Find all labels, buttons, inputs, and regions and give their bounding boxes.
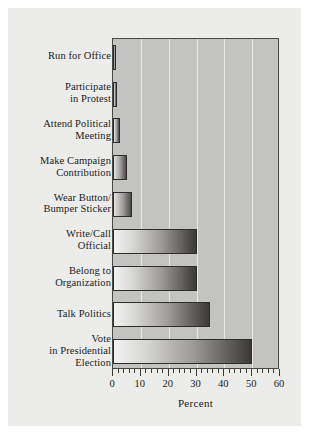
category-label-line: in Protest (65, 93, 111, 105)
category-label-line: Vote (49, 333, 111, 345)
category-label: Wear Button/Bumper Sticker (8, 185, 111, 222)
bar (113, 266, 197, 291)
gridline-40 (224, 39, 225, 368)
bar (113, 118, 120, 143)
category-label: Attend PoliticalMeeting (8, 112, 111, 149)
minor-tick-46 (240, 369, 241, 373)
gridline-50 (252, 39, 253, 368)
category-label: Run for Office (8, 38, 111, 75)
category-label-line: Attend Political (43, 118, 111, 130)
category-label-line: Meeting (43, 130, 111, 142)
major-tick-30 (196, 369, 197, 376)
category-label-line: Organization (55, 277, 111, 289)
minor-tick-36 (212, 369, 213, 373)
category-label-line: Contribution (40, 167, 111, 179)
x-axis-title: Percent (112, 397, 279, 409)
minor-tick-34 (207, 369, 208, 373)
category-label-line: Write/Call (66, 228, 111, 240)
category-label-line: Participate (65, 81, 111, 93)
minor-tick-22 (173, 369, 174, 373)
category-label-line: Election (49, 357, 111, 369)
major-tick-10 (140, 369, 141, 376)
category-label-line: Make Campaign (40, 155, 111, 167)
minor-tick-54 (262, 369, 263, 373)
category-label-line: Bumper Sticker (43, 203, 111, 215)
plot-area (112, 38, 279, 369)
minor-tick-38 (218, 369, 219, 373)
minor-tick-28 (190, 369, 191, 373)
tick-label-0: 0 (109, 378, 114, 389)
minor-tick-18 (162, 369, 163, 373)
category-label-line: in Presidential (49, 345, 111, 357)
category-label-line: Wear Button/ (43, 192, 111, 204)
category-label: Make CampaignContribution (8, 148, 111, 185)
minor-tick-14 (151, 369, 152, 373)
minor-tick-32 (201, 369, 202, 373)
minor-tick-58 (273, 369, 274, 373)
bar (113, 339, 252, 364)
tick-label-20: 20 (162, 378, 173, 389)
chart-figure: Run for OfficeParticipatein ProtestAtten… (8, 8, 301, 426)
minor-tick-26 (184, 369, 185, 373)
minor-tick-8 (134, 369, 135, 373)
minor-tick-16 (157, 369, 158, 373)
tick-label-60: 60 (274, 378, 285, 389)
major-tick-20 (168, 369, 169, 376)
category-label-line: Run for Office (48, 50, 111, 62)
minor-tick-42 (229, 369, 230, 373)
tick-label-10: 10 (135, 378, 146, 389)
minor-tick-44 (234, 369, 235, 373)
category-label: Talk Politics (8, 295, 111, 332)
minor-tick-24 (179, 369, 180, 373)
bar (113, 302, 210, 327)
minor-tick-48 (246, 369, 247, 373)
x-axis-tick-labels: 0102030405060 (112, 378, 279, 394)
minor-tick-12 (145, 369, 146, 373)
major-tick-0 (112, 369, 113, 376)
bar (113, 155, 127, 180)
bar (113, 192, 132, 217)
category-label: Belong toOrganization (8, 259, 111, 296)
minor-tick-4 (123, 369, 124, 373)
category-label-line: Belong to (55, 265, 111, 277)
major-tick-60 (279, 369, 280, 376)
minor-tick-6 (129, 369, 130, 373)
major-tick-40 (223, 369, 224, 376)
tick-label-40: 40 (218, 378, 229, 389)
category-label: Votein PresidentialElection (8, 332, 111, 369)
category-label-line: Talk Politics (57, 308, 111, 320)
category-label: Write/CallOfficial (8, 222, 111, 259)
minor-tick-56 (268, 369, 269, 373)
tick-label-50: 50 (246, 378, 257, 389)
bar (113, 82, 117, 107)
category-label: Participatein Protest (8, 75, 111, 112)
minor-tick-2 (118, 369, 119, 373)
bar (113, 229, 197, 254)
tick-label-30: 30 (190, 378, 201, 389)
major-tick-50 (251, 369, 252, 376)
minor-tick-52 (257, 369, 258, 373)
bar (113, 45, 116, 70)
category-axis-labels: Run for OfficeParticipatein ProtestAtten… (8, 38, 111, 369)
category-label-line: Official (66, 240, 111, 252)
